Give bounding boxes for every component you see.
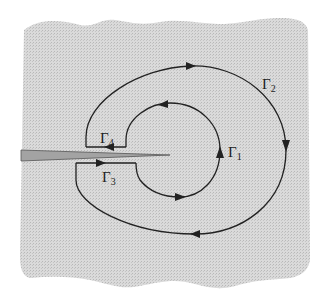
crack-contour-diagram: Γ2 Γ1 Γ4 Γ3 <box>0 0 326 306</box>
